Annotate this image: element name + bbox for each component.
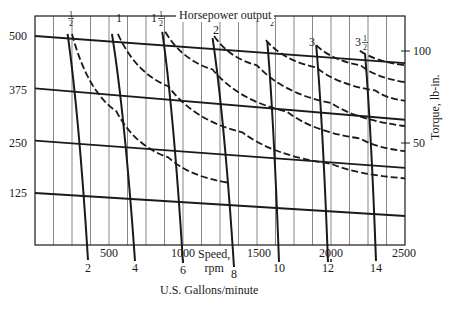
flow-line: [365, 54, 376, 261]
svg-text:1: 1: [151, 11, 157, 25]
x-gpm-tick-label: 6: [180, 263, 186, 277]
svg-text:1: 1: [363, 34, 367, 43]
flow-line: [68, 34, 88, 260]
x-axis-label-speed: Speed, rpm: [198, 247, 230, 275]
flow-line: [267, 42, 279, 262]
hp-label: 1: [116, 11, 122, 25]
flow-lines: [68, 32, 376, 267]
flow-line: [316, 45, 328, 262]
x-speed-tick-label: 2500: [392, 246, 416, 260]
x-speed-tick-label: 2000: [319, 246, 343, 260]
svg-text:3: 3: [355, 35, 361, 49]
horsepower-curve: [72, 34, 227, 183]
y-axis-label-torque: Torque, lb-in.: [428, 75, 443, 140]
x-gpm-tick-label: 12: [322, 261, 334, 275]
speed-label-line1: Speed,: [198, 247, 230, 261]
hp-label: 112: [151, 10, 164, 28]
horsepower-curve: [266, 40, 405, 101]
svg-text:2: 2: [363, 43, 367, 52]
y-left-tick-label: 250: [9, 136, 27, 150]
hp-label: 2: [213, 23, 219, 37]
x-speed-tick-label: 1500: [247, 246, 271, 260]
speed-label-line2: rpm: [198, 261, 230, 275]
chart-title: Horsepower output: [176, 8, 274, 22]
x-gpm-tick-label: 8: [231, 267, 237, 281]
hp-label: 12: [68, 10, 74, 28]
hp-label: 312: [355, 34, 368, 52]
x-axis-label-gallons: U.S. Gallons/minute: [160, 283, 258, 298]
svg-text:1: 1: [116, 11, 122, 25]
x-gpm-tick-label: 14: [370, 261, 382, 275]
y-right-tick-label: 100: [413, 44, 431, 58]
x-gpm-tick-label: 4: [132, 261, 138, 275]
x-speed-tick-label: 500: [100, 246, 118, 260]
flow-line: [162, 32, 183, 263]
x-gpm-tick-label: 10: [273, 261, 285, 275]
svg-text:2: 2: [159, 19, 163, 28]
svg-text:1: 1: [159, 10, 163, 19]
svg-text:1: 1: [69, 10, 73, 19]
svg-text:3: 3: [309, 35, 315, 49]
y-right-tick-label: 50: [413, 136, 425, 150]
x-speed-tick-label: 1000: [171, 246, 195, 260]
x-gpm-tick-label: 2: [85, 261, 91, 275]
svg-text:2: 2: [69, 19, 73, 28]
y-left-tick-label: 125: [9, 186, 27, 200]
svg-text:2: 2: [213, 23, 219, 37]
y-left-tick-label: 500: [9, 29, 27, 43]
y-left-tick-label: 375: [9, 83, 27, 97]
hp-label: 3: [309, 35, 315, 49]
